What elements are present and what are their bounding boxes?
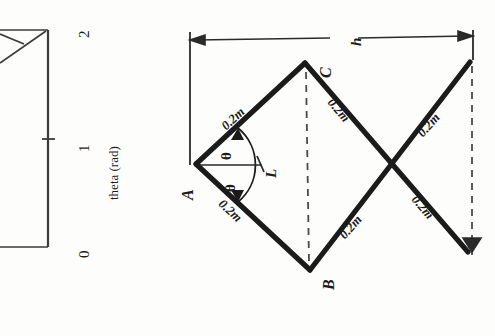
- figure-vector-layer: [0, 0, 495, 336]
- linkage-members: [196, 62, 470, 270]
- dimension-L-label: L: [263, 169, 280, 178]
- node-label-A: A: [179, 189, 197, 200]
- plot-tick-2: 2: [76, 31, 93, 39]
- plot-axis-label: theta (rad): [106, 146, 122, 200]
- plot-curve: [0, 31, 46, 63]
- angle-label-theta-upper: θ: [218, 152, 235, 160]
- plot-tick-0: 0: [76, 251, 93, 259]
- plot-axes: [0, 30, 55, 247]
- dimension-h-label: h: [348, 38, 365, 46]
- node-label-B: B: [320, 279, 338, 290]
- plot-tick-1: 1: [76, 145, 93, 153]
- figure-canvas: 0 1 2 theta (rad) h C A B L θ θ 0.2m 0.2…: [0, 0, 495, 336]
- dimension-h-arrow-line: [190, 31, 473, 45]
- node-label-C: C: [317, 67, 335, 78]
- angle-label-theta-lower: θ: [222, 184, 239, 192]
